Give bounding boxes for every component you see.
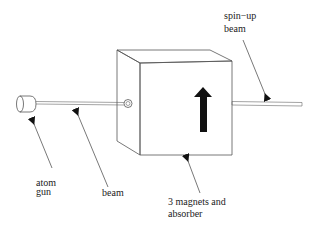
spin-up-pointer: [243, 40, 265, 94]
atom-gun-icon: [17, 96, 37, 112]
beam-label: beam: [102, 187, 124, 198]
spin-up-label-line2: beam: [224, 23, 246, 34]
spin-up-label-line1: spin−up: [224, 10, 256, 21]
atom-gun-pointer: [34, 124, 52, 168]
stern-gerlach-diagram: atom gun beam 3 magnets and absorber spi…: [0, 0, 314, 226]
magnets-pointer: [188, 161, 200, 193]
beam-pointer: [78, 115, 108, 187]
spin-up-arrow-icon: [194, 87, 212, 132]
magnet-box: [117, 50, 232, 155]
magnets-label-line1: 3 magnets and: [168, 196, 226, 207]
input-beam: [36, 102, 124, 106]
output-beam: [232, 102, 302, 107]
magnets-label-line2: absorber: [168, 208, 203, 219]
atom-gun-label-line2: gun: [36, 186, 51, 197]
entry-hole: [124, 100, 132, 108]
